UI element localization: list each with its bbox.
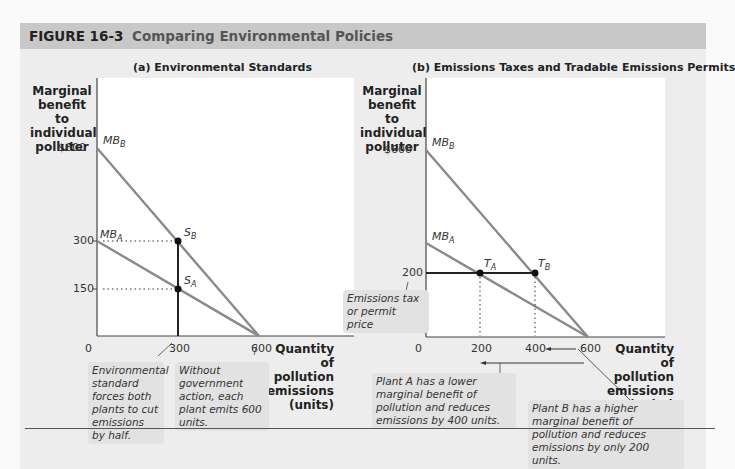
xlabel-line: (units) — [266, 398, 334, 412]
panel-b-xtick-400: 400 — [525, 342, 546, 355]
xlabel-line: Quantity of — [266, 342, 334, 370]
panel-b-ytick-600: $600 — [384, 143, 412, 156]
panel-a-xtick-300: 300 — [169, 342, 190, 355]
note-plant-b: Plant B has a higher marginal benefit of… — [528, 400, 684, 469]
point-sb — [175, 238, 182, 245]
bottom-rule — [25, 428, 715, 429]
note-without-government: Without government action, each plant em… — [175, 362, 269, 431]
ylabel-line: individual — [360, 126, 424, 140]
xlabel-line: pollution — [266, 370, 334, 384]
panel-a-x-label: Quantity of pollution emissions (units) — [266, 342, 334, 412]
ylabel-line: Marginal — [360, 84, 424, 98]
panel-b-xtick-600: 600 — [580, 342, 601, 355]
note-plant-a: Plant A has a lower marginal benefit of … — [372, 373, 516, 429]
panel-a-ytick-150: 150 — [73, 282, 94, 295]
note-environmental-standard: Environmental standard forces both plant… — [88, 362, 164, 444]
panel-a-ytick-300: 300 — [73, 234, 94, 247]
xlabel-line: emissions — [266, 384, 334, 398]
panel-a-xtick-0: 0 — [85, 342, 92, 355]
note-emissions-tax: Emissions tax or permit price — [343, 290, 429, 333]
arrowhead — [480, 361, 486, 365]
panel-b-plot-area — [426, 78, 665, 337]
panel-a-ytick-600: $600 — [58, 141, 86, 154]
ylabel-line: Marginal — [30, 84, 94, 98]
panel-b-xtick-200: 200 — [471, 342, 492, 355]
point-tb — [532, 270, 539, 277]
ylabel-line: benefit to — [30, 98, 94, 126]
ylabel-line: benefit to — [360, 98, 424, 126]
xlabel-line: pollution — [606, 370, 674, 384]
panel-b-xtick-0: 0 — [415, 342, 422, 355]
panel-b-ytick-200: 200 — [402, 266, 423, 279]
xlabel-line: Quantity of — [606, 342, 674, 370]
point-sa — [175, 286, 182, 293]
xlabel-line: emissions — [606, 384, 674, 398]
point-ta — [477, 270, 484, 277]
ylabel-line: individual — [30, 126, 94, 140]
